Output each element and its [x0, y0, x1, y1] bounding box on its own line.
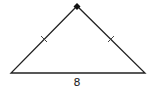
triangle — [11, 6, 145, 73]
triangle-diagram: 8 — [0, 0, 152, 92]
base-label: 8 — [74, 76, 81, 89]
